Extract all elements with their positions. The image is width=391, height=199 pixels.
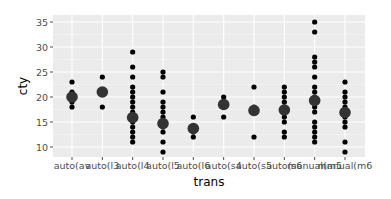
- mean-point: [66, 91, 78, 103]
- x-axis: auto(avauto(l3auto(l4auto(l5auto(l6auto(…: [54, 157, 373, 171]
- data-point: [251, 134, 256, 139]
- data-point: [160, 129, 165, 134]
- data-point: [312, 19, 317, 24]
- y-tick-label: 20: [36, 92, 48, 103]
- data-point: [130, 84, 135, 89]
- data-point: [130, 134, 135, 139]
- data-point: [130, 89, 135, 94]
- data-point: [312, 89, 317, 94]
- data-point: [160, 109, 165, 114]
- data-point: [312, 64, 317, 69]
- data-point: [282, 134, 287, 139]
- mean-point: [218, 99, 230, 111]
- data-point: [130, 74, 135, 79]
- plot-panel: [53, 15, 365, 157]
- mean-point: [309, 95, 321, 107]
- data-point: [69, 79, 74, 84]
- data-point: [342, 99, 347, 104]
- data-point: [312, 84, 317, 89]
- data-point: [282, 119, 287, 124]
- data-point: [312, 59, 317, 64]
- data-point: [130, 104, 135, 109]
- x-tick-label: auto(l4: [116, 160, 150, 171]
- data-point: [130, 99, 135, 104]
- data-point: [282, 89, 287, 94]
- x-tick-label: auto(l5: [146, 160, 180, 171]
- data-point: [282, 99, 287, 104]
- data-point: [130, 129, 135, 134]
- data-point: [312, 124, 317, 129]
- data-point: [160, 104, 165, 109]
- data-point: [342, 139, 347, 144]
- data-point: [130, 49, 135, 54]
- data-point: [282, 129, 287, 134]
- data-point: [342, 89, 347, 94]
- chart: 101520253035 auto(avauto(l3auto(l4auto(l…: [0, 0, 391, 199]
- data-point: [312, 139, 317, 144]
- data-point: [191, 134, 196, 139]
- x-tick-label: manual(m6: [318, 160, 373, 171]
- x-tick-label: auto(l3: [85, 160, 119, 171]
- data-point: [160, 69, 165, 74]
- y-tick-label: 30: [36, 42, 48, 53]
- data-point: [312, 54, 317, 59]
- mean-point: [127, 112, 139, 124]
- data-point: [251, 84, 256, 89]
- data-point: [160, 99, 165, 104]
- data-point: [282, 84, 287, 89]
- data-point: [160, 149, 165, 154]
- data-point: [100, 74, 105, 79]
- data-point: [312, 74, 317, 79]
- mean-point: [157, 118, 169, 130]
- y-axis: 101520253035: [36, 17, 53, 153]
- data-point: [130, 94, 135, 99]
- y-tick-label: 25: [36, 67, 48, 78]
- data-point: [342, 124, 347, 129]
- data-point: [342, 79, 347, 84]
- data-point: [160, 74, 165, 79]
- data-point: [282, 94, 287, 99]
- mean-point: [97, 86, 109, 98]
- data-point: [160, 89, 165, 94]
- mean-point: [279, 104, 291, 116]
- data-point: [312, 129, 317, 134]
- data-point: [342, 149, 347, 154]
- data-point: [312, 109, 317, 114]
- data-point: [130, 64, 135, 69]
- y-tick-label: 35: [36, 17, 48, 28]
- data-point: [69, 104, 74, 109]
- data-point: [342, 119, 347, 124]
- mean-point: [339, 107, 351, 119]
- data-point: [160, 139, 165, 144]
- data-point: [130, 139, 135, 144]
- y-axis-title: cty: [16, 77, 30, 95]
- data-point: [342, 94, 347, 99]
- data-point: [312, 119, 317, 124]
- y-tick-label: 10: [36, 142, 48, 153]
- data-point: [312, 134, 317, 139]
- mean-point: [248, 105, 260, 117]
- data-point: [100, 104, 105, 109]
- x-axis-title: trans: [194, 175, 225, 189]
- data-point: [312, 29, 317, 34]
- data-point: [130, 124, 135, 129]
- mean-point: [188, 123, 200, 135]
- data-point: [191, 114, 196, 119]
- y-tick-label: 15: [36, 117, 48, 128]
- data-point: [221, 114, 226, 119]
